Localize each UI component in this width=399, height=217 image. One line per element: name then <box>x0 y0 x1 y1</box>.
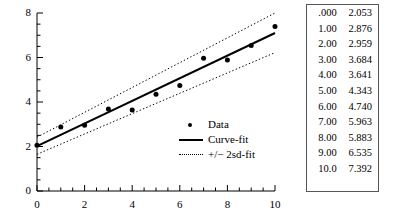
table-cell-x: 10.0 <box>307 161 340 177</box>
plot-canvas <box>0 0 300 217</box>
solid-line-icon <box>178 132 204 147</box>
table-cell-x: 4.00 <box>307 67 340 83</box>
legend-item-2sd-fit: +/− 2sd-fit <box>178 147 270 162</box>
table-row: 4.003.641 <box>307 67 378 83</box>
dotted-line-icon <box>178 147 204 162</box>
table-cell-x: 3.00 <box>307 52 340 68</box>
chart-legend: Data Curve-fit +/− 2sd-fit <box>178 117 270 162</box>
legend-item-label: +/− 2sd-fit <box>204 149 255 160</box>
table-cell-y: 5.963 <box>340 114 378 130</box>
table-cell-y: 3.684 <box>340 52 378 68</box>
table-cell-x: 2.00 <box>307 36 340 52</box>
table-row: 2.002.959 <box>307 36 378 52</box>
data-point <box>154 92 159 97</box>
data-point <box>130 107 135 112</box>
table-cell-x: 5.00 <box>307 83 340 99</box>
table-row: 9.006.535 <box>307 145 378 161</box>
y-axis-ticks <box>37 13 43 191</box>
table-cell-y: 5.883 <box>340 130 378 146</box>
legend-item-label: Curve-fit <box>204 134 248 145</box>
table-cell-y: 2.876 <box>340 21 378 37</box>
x-axis-ticks <box>37 185 275 191</box>
y-axis-tick-label: 6 <box>13 51 31 63</box>
x-axis-tick-label: 6 <box>170 198 190 210</box>
table-row: 3.003.684 <box>307 52 378 68</box>
legend-item-label: Data <box>204 119 229 130</box>
table-cell-x: 1.00 <box>307 21 340 37</box>
x-axis-tick-label: 8 <box>217 198 237 210</box>
scatter-plot-figure: 02468 0246810 Data Curve-fit +/− 2sd-fit <box>0 0 300 217</box>
data-point <box>177 83 182 88</box>
filled-circle-marker-icon <box>178 117 204 132</box>
data-point <box>35 143 40 148</box>
y-axis-tick-label: 2 <box>13 140 31 152</box>
table-row: 5.004.343 <box>307 83 378 99</box>
y-axis-tick-label: 0 <box>13 184 31 196</box>
table-cell-x: 9.00 <box>307 145 340 161</box>
table-cell-y: 2.053 <box>340 5 378 21</box>
legend-item-curve-fit: Curve-fit <box>178 132 270 147</box>
table-row: 7.005.963 <box>307 114 378 130</box>
x-axis-tick-label: 4 <box>122 198 142 210</box>
table-cell-y: 4.740 <box>340 99 378 115</box>
x-axis-tick-label: 0 <box>27 198 47 210</box>
table-cell-x: .000 <box>307 5 340 21</box>
table-row: 1.002.876 <box>307 21 378 37</box>
table-cell-y: 4.343 <box>340 83 378 99</box>
table-cell-x: 6.00 <box>307 99 340 115</box>
y-axis-tick-label: 4 <box>13 95 31 107</box>
data-point <box>58 125 63 130</box>
legend-item-data: Data <box>178 117 270 132</box>
x-axis-tick-label: 10 <box>265 198 285 210</box>
data-table: .0002.0531.002.8762.002.9593.003.6844.00… <box>307 5 378 177</box>
table-row: 6.004.740 <box>307 99 378 115</box>
table-cell-x: 8.00 <box>307 130 340 146</box>
table-cell-y: 3.641 <box>340 67 378 83</box>
table-row: 10.07.392 <box>307 161 378 177</box>
data-point <box>249 43 254 48</box>
table-cell-x: 7.00 <box>307 114 340 130</box>
data-value-table: .0002.0531.002.8762.002.9593.003.6844.00… <box>306 4 379 192</box>
table-cell-y: 6.535 <box>340 145 378 161</box>
table-cell-y: 2.959 <box>340 36 378 52</box>
data-point <box>201 56 206 61</box>
table-row: 8.005.883 <box>307 130 378 146</box>
x-axis-tick-label: 2 <box>75 198 95 210</box>
y-axis-tick-label: 8 <box>13 6 31 18</box>
data-point <box>106 107 111 112</box>
data-point <box>225 58 230 63</box>
table-row: .0002.053 <box>307 5 378 21</box>
table-cell-y: 7.392 <box>340 161 378 177</box>
data-point <box>273 24 278 29</box>
data-point <box>82 123 87 128</box>
